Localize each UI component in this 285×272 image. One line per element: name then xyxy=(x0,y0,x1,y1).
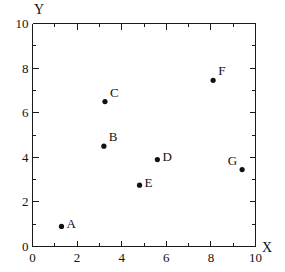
data-point-label-F: F xyxy=(218,63,225,78)
y-axis-title: Y xyxy=(34,2,44,17)
data-point-label-D: D xyxy=(162,149,171,164)
y-tick-label-10: 10 xyxy=(16,16,29,31)
data-point-B xyxy=(101,144,106,149)
tick-labels-group: 02468100246810 xyxy=(16,16,263,265)
data-point-label-A: A xyxy=(66,216,76,231)
ticks-group xyxy=(33,24,256,247)
x-tick-label-10: 10 xyxy=(249,250,262,265)
data-point-C xyxy=(102,99,107,104)
axes-group xyxy=(33,24,256,247)
data-points-group xyxy=(59,78,245,229)
data-point-label-C: C xyxy=(110,85,119,100)
scatter-plot-figure: 02468100246810 ABCDEFG X Y xyxy=(0,0,285,272)
y-tick-label-0: 0 xyxy=(22,239,29,254)
plot-frame xyxy=(33,24,256,247)
y-tick-label-2: 2 xyxy=(22,194,29,209)
plot-canvas: 02468100246810 ABCDEFG X Y xyxy=(0,0,285,272)
x-tick-label-4: 4 xyxy=(118,250,125,265)
y-tick-label-8: 8 xyxy=(22,61,29,76)
data-point-label-G: G xyxy=(228,153,237,168)
x-tick-label-6: 6 xyxy=(163,250,170,265)
x-tick-label-8: 8 xyxy=(208,250,215,265)
data-point-G xyxy=(240,167,245,172)
data-point-label-E: E xyxy=(145,175,153,190)
data-point-E xyxy=(137,183,142,188)
x-tick-label-0: 0 xyxy=(29,250,36,265)
x-tick-label-2: 2 xyxy=(74,250,81,265)
data-point-D xyxy=(155,157,160,162)
data-point-labels-group: ABCDEFG xyxy=(66,63,237,231)
y-tick-label-4: 4 xyxy=(22,150,29,165)
data-point-label-B: B xyxy=(109,129,118,144)
data-point-A xyxy=(59,224,64,229)
x-axis-title: X xyxy=(262,240,272,255)
data-point-F xyxy=(211,78,216,83)
y-tick-label-6: 6 xyxy=(22,105,29,120)
